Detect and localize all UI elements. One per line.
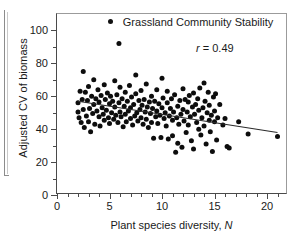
- legend-row: Grassland Community Stability: [108, 15, 283, 29]
- plot-frame: 020406080100 05101520: [56, 13, 287, 194]
- data-point: [172, 92, 177, 97]
- y-tick-label: 80: [36, 58, 48, 69]
- data-point: [156, 101, 161, 106]
- data-point: [202, 123, 207, 128]
- data-point: [125, 99, 130, 104]
- data-point: [102, 82, 107, 87]
- data-point: [139, 88, 144, 93]
- data-point: [203, 99, 208, 104]
- data-point: [145, 104, 150, 109]
- x-tick-label: 20: [261, 201, 273, 212]
- data-point: [195, 96, 200, 101]
- y-tick-minor: [53, 146, 57, 147]
- data-point: [84, 114, 89, 119]
- data-point: [213, 91, 218, 96]
- data-point: [119, 114, 124, 119]
- data-point: [185, 109, 190, 114]
- data-point: [205, 110, 210, 115]
- data-point: [236, 119, 241, 124]
- y-tick-major: [51, 30, 57, 31]
- scan-edge-artifact-outer: [4, 10, 5, 176]
- scan-edge-artifact-inner: [7, 12, 8, 174]
- data-point: [98, 123, 103, 128]
- data-point: [192, 112, 197, 117]
- y-tick-major: [51, 162, 57, 163]
- x-tick-minor: [120, 193, 121, 197]
- data-point: [128, 116, 133, 121]
- data-point: [100, 105, 105, 110]
- x-axis-title-symbol: N: [225, 219, 233, 231]
- data-point: [187, 93, 192, 98]
- data-point: [181, 86, 186, 91]
- data-point: [130, 123, 135, 128]
- data-point: [92, 122, 97, 127]
- correlation-equals: =: [200, 42, 213, 54]
- data-point: [189, 138, 194, 143]
- data-point: [114, 92, 119, 97]
- data-point: [179, 145, 184, 150]
- data-point: [204, 141, 209, 146]
- data-point: [77, 115, 82, 120]
- data-point: [169, 96, 174, 101]
- data-point: [177, 98, 182, 103]
- correlation-annotation: r = 0.49: [196, 42, 234, 54]
- data-point: [140, 103, 145, 108]
- data-point: [109, 110, 114, 115]
- y-tick-minor: [53, 179, 57, 180]
- x-axis-title: Plant species diversity, N: [56, 219, 287, 231]
- data-point: [166, 137, 171, 142]
- data-point: [208, 129, 213, 134]
- data-point: [133, 72, 138, 77]
- data-point: [196, 108, 201, 113]
- data-point: [175, 104, 180, 109]
- data-point: [144, 81, 149, 86]
- x-tick-minor: [278, 193, 279, 197]
- y-tick-minor: [53, 47, 57, 48]
- data-point: [120, 96, 125, 101]
- data-point: [97, 114, 102, 119]
- data-point: [151, 136, 156, 141]
- data-point: [182, 118, 187, 123]
- x-tick-minor: [257, 193, 258, 197]
- data-point: [129, 95, 134, 100]
- data-point: [149, 94, 154, 99]
- data-point: [246, 132, 251, 137]
- data-point: [103, 97, 108, 102]
- data-point: [82, 125, 87, 130]
- data-point: [154, 87, 159, 92]
- data-point: [99, 93, 104, 98]
- data-point: [178, 112, 183, 117]
- x-tick-minor: [99, 193, 100, 197]
- data-point: [88, 129, 93, 134]
- data-point: [91, 77, 96, 82]
- y-tick-label: 0: [42, 190, 48, 201]
- x-tick-major: [110, 193, 111, 199]
- data-point: [78, 89, 83, 94]
- data-point: [141, 122, 146, 127]
- y-tick-major: [51, 63, 57, 64]
- data-point: [86, 84, 91, 89]
- x-tick-minor: [204, 193, 205, 197]
- data-point: [144, 117, 149, 122]
- legend-label: Grassland Community Stability: [119, 15, 283, 29]
- x-tick-minor: [89, 193, 90, 197]
- data-point: [152, 99, 157, 104]
- data-point: [196, 127, 201, 132]
- data-point: [164, 123, 169, 128]
- x-tick-label: 0: [54, 201, 60, 212]
- x-tick-minor: [173, 193, 174, 197]
- x-tick-minor: [194, 193, 195, 197]
- data-point: [131, 102, 136, 107]
- data-point: [160, 76, 165, 81]
- data-point: [118, 85, 123, 90]
- data-point: [275, 134, 280, 139]
- data-point: [116, 100, 121, 105]
- y-tick-label: 100: [30, 25, 48, 36]
- data-point: [200, 105, 205, 110]
- legend: Grassland Community Stability: [108, 15, 283, 29]
- data-point: [158, 135, 163, 140]
- correlation-value: 0.49: [212, 42, 233, 54]
- data-point: [89, 94, 94, 99]
- data-point: [76, 109, 81, 114]
- data-point: [102, 118, 107, 123]
